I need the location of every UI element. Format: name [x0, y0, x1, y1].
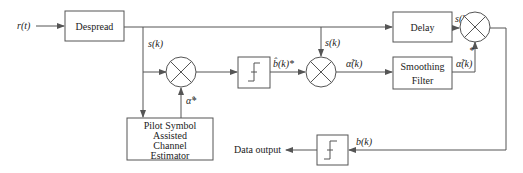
- smoothing-filter-label-1: Smoothing: [401, 61, 445, 72]
- estimator-label-4: Estimator: [151, 150, 191, 161]
- multiplier-1: [166, 57, 196, 87]
- alpha-hat-conj-label: α̂*: [186, 95, 196, 106]
- despread-block: Despread: [65, 11, 124, 41]
- b-k-label: b(k): [356, 136, 373, 148]
- conjugate-mark: *: [469, 45, 474, 56]
- multiplier-3: [460, 12, 490, 42]
- b-hat-conj-label: b̂(k)*: [273, 57, 294, 70]
- decision-device-2: [317, 135, 348, 165]
- s-k-label-left: s(k): [148, 38, 164, 50]
- decision-device-1: [238, 57, 270, 88]
- alpha-tilde-out-label: α̃(k): [456, 58, 473, 70]
- pilot-symbol-estimator-block: Pilot Symbol Assisted Channel Estimator: [127, 118, 213, 161]
- despread-label: Despread: [76, 21, 114, 32]
- data-output-label: Data output: [234, 144, 281, 155]
- input-signal: r(t): [17, 20, 64, 32]
- smoothing-filter-label-2: Filter: [412, 75, 434, 86]
- smoothing-filter-block: Smoothing Filter: [393, 57, 452, 89]
- delay-label: Delay: [411, 22, 435, 33]
- delay-block: Delay: [393, 12, 452, 42]
- s-k-label-mid: s(k): [325, 37, 341, 49]
- input-label: r(t): [17, 20, 31, 32]
- alpha-tilde-in-label: α̃(k): [346, 58, 363, 70]
- block-diagram: r(t) Despread s(k) α̂* Pilot Symbol Assi…: [0, 0, 523, 173]
- multiplier-2: [306, 57, 336, 87]
